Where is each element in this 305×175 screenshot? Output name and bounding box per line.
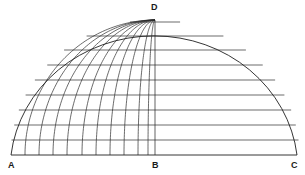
meridian-arc [148, 20, 155, 155]
meridian-arc [124, 20, 155, 155]
hemisphere-dome-figure [0, 0, 305, 175]
meridian-arc [67, 20, 155, 155]
diagram-canvas: A B C D [0, 0, 305, 175]
meridian-arc [138, 20, 155, 155]
vertex-label-a: A [8, 160, 15, 170]
meridian-arc [25, 20, 155, 155]
meridian-lines-group [25, 20, 155, 155]
vertex-label-c: C [291, 160, 298, 170]
vertex-label-d: D [151, 2, 158, 12]
vertex-label-b: B [152, 160, 159, 170]
